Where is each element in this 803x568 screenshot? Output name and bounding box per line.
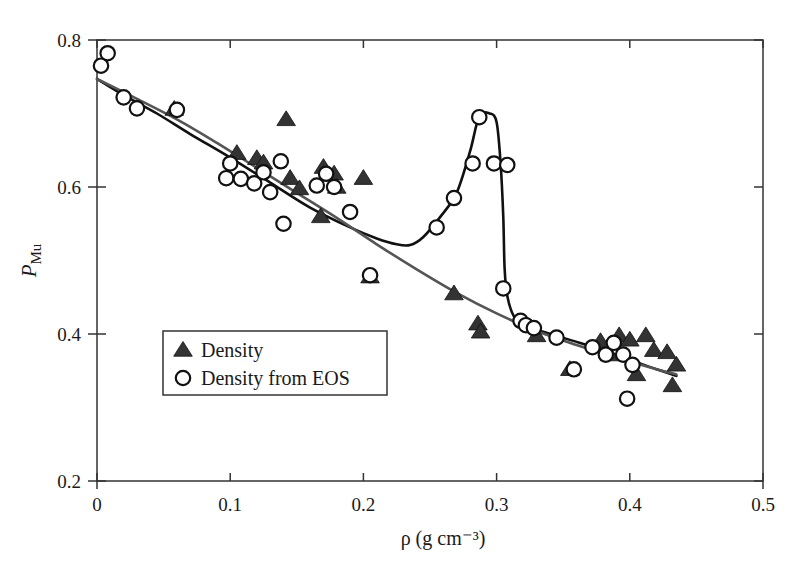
data-point-density-from-eos [625, 358, 639, 372]
chart-legend[interactable]: DensityDensity from EOS [163, 331, 387, 395]
tick-labels-group: 00.10.20.30.40.50.20.40.60.8 [57, 30, 775, 515]
data-point-density-from-eos [549, 330, 563, 344]
x-tick-label: 0.2 [352, 494, 376, 515]
data-point-density-from-eos [100, 46, 114, 60]
data-point-density-from-eos [363, 268, 377, 282]
legend-label: Density from EOS [201, 367, 350, 390]
x-tick-label: 0 [92, 494, 102, 515]
data-point-density-from-eos [343, 205, 357, 219]
figure-root: 00.10.20.30.40.50.20.40.60.8 DensityDens… [0, 0, 803, 568]
data-point-density [658, 344, 677, 359]
data-point-density-from-eos [496, 281, 510, 295]
data-point-density-from-eos [170, 103, 184, 117]
x-tick-label: 0.1 [218, 494, 242, 515]
data-point-density-from-eos [116, 90, 130, 104]
data-point-density-from-eos [263, 185, 277, 199]
data-point-density-from-eos [447, 191, 461, 205]
data-point-density-from-eos [223, 156, 237, 170]
scatter-chart: 00.10.20.30.40.50.20.40.60.8 DensityDens… [0, 0, 803, 568]
data-point-density-from-eos [620, 391, 634, 405]
data-point-density [281, 170, 300, 185]
axis-titles-group: ρ (g cm⁻³)PMu [17, 243, 485, 550]
x-tick-label: 0.5 [751, 494, 775, 515]
x-tick-label: 0.4 [618, 494, 642, 515]
y-tick-label: 0.8 [57, 30, 81, 51]
data-point-density-from-eos [527, 321, 541, 335]
data-point-density-from-eos [500, 158, 514, 172]
data-point-density [354, 170, 373, 185]
y-tick-label: 0.6 [57, 177, 81, 198]
legend-label: Density [201, 339, 263, 362]
data-point-density [277, 111, 296, 126]
y-axis-title: PMu [17, 243, 44, 278]
legend-marker-open-circle-icon [176, 371, 190, 385]
data-point-density-from-eos [130, 101, 144, 115]
fit-curve-grey-curve [97, 79, 676, 374]
data-point-density-from-eos [219, 171, 233, 185]
data-point-density-from-eos [319, 167, 333, 181]
axes-group [88, 40, 763, 489]
x-tick-label: 0.3 [485, 494, 509, 515]
plot-frame [97, 40, 763, 481]
data-point-density-from-eos [274, 154, 288, 168]
data-point-density-from-eos [234, 172, 248, 186]
y-axis-title-base: P [17, 264, 41, 278]
data-point-density-from-eos [567, 362, 581, 376]
data-point-density-from-eos [429, 220, 443, 234]
y-tick-label: 0.4 [57, 324, 81, 345]
data-point-density [636, 327, 655, 342]
y-tick-label: 0.2 [57, 471, 81, 492]
data-point-density-from-eos [256, 165, 270, 179]
x-axis-title: ρ (g cm⁻³) [401, 527, 486, 550]
data-point-density [663, 377, 682, 392]
data-point-density-from-eos [487, 156, 501, 170]
y-axis-title-subscript: Mu [28, 243, 44, 264]
data-point-density-from-eos [276, 217, 290, 231]
data-point-density-from-eos [465, 156, 479, 170]
data-point-density-from-eos [327, 180, 341, 194]
y-axis-title-text: PMu [17, 243, 44, 278]
data-point-density-from-eos [585, 340, 599, 354]
data-point-density-from-eos [472, 110, 486, 124]
